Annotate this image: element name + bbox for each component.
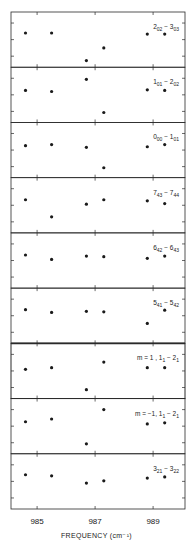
data-point: [146, 366, 149, 369]
data-point: [146, 199, 149, 202]
data-point: [50, 474, 53, 477]
data-point: [146, 257, 149, 260]
data-point: [85, 481, 88, 484]
x-tick-label: 987: [88, 517, 102, 526]
data-point: [24, 253, 27, 256]
data-point: [24, 368, 27, 371]
panel: 642 − 643: [11, 233, 185, 288]
data-point: [24, 473, 27, 476]
data-point: [163, 89, 166, 92]
data-point: [146, 88, 149, 91]
panel-label: m = 1 , 11 − 21: [137, 354, 179, 363]
data-point: [102, 255, 105, 258]
panel: m = 1 , 11 − 21: [11, 343, 185, 398]
panel: 101 − 202: [11, 67, 185, 122]
data-point: [85, 59, 88, 62]
data-point: [146, 32, 149, 35]
data-point: [50, 90, 53, 93]
data-point: [163, 202, 166, 205]
data-point: [163, 254, 166, 257]
data-point: [85, 203, 88, 206]
data-point: [24, 198, 27, 201]
panel-label: 642 − 643: [153, 244, 179, 253]
data-point: [102, 111, 105, 114]
panel-frame: [11, 454, 185, 509]
panel-frame: [11, 122, 185, 177]
data-point: [102, 166, 105, 169]
panel: 743 − 744: [11, 178, 185, 233]
panel-frame: [11, 12, 185, 67]
data-point: [50, 143, 53, 146]
panel-frame: [11, 178, 185, 233]
data-point: [85, 146, 88, 149]
data-point: [50, 311, 53, 314]
stacked-scatter-chart: 202 − 303101 − 202000 − 101743 − 744642 …: [0, 0, 193, 553]
panel-label: 321 − 322: [153, 465, 179, 474]
data-point: [85, 442, 88, 445]
data-point: [163, 366, 166, 369]
data-point: [163, 32, 166, 35]
panel-label: 101 − 202: [153, 78, 179, 87]
data-point: [163, 475, 166, 478]
data-point: [102, 46, 105, 49]
data-point: [102, 479, 105, 482]
data-point: [102, 361, 105, 364]
data-point: [24, 420, 27, 423]
data-point: [24, 31, 27, 34]
data-point: [85, 254, 88, 257]
panel-frame: [11, 288, 185, 343]
panel-frame: [11, 233, 185, 288]
x-axis-title: FREQUENCY (cm⁻¹): [0, 532, 193, 540]
data-point: [85, 388, 88, 391]
data-point: [85, 78, 88, 81]
panel: 000 − 101: [11, 122, 185, 177]
data-point: [50, 366, 53, 369]
panel-frame: [11, 67, 185, 122]
panel-label: m = −1, 11 − 21: [135, 410, 179, 419]
x-tick-label: 985: [30, 517, 44, 526]
data-point: [85, 310, 88, 313]
data-point: [146, 145, 149, 148]
panel-label: 000 − 101: [153, 133, 179, 142]
panel: m = −1, 11 − 21: [11, 399, 185, 454]
data-point: [163, 309, 166, 312]
data-point: [50, 215, 53, 218]
data-point: [24, 89, 27, 92]
data-point: [102, 310, 105, 313]
data-point: [146, 422, 149, 425]
data-point: [24, 308, 27, 311]
data-point: [163, 421, 166, 424]
panel: 541 − 542: [11, 288, 185, 343]
panel-label: 202 − 303: [153, 23, 179, 32]
x-tick-label: 989: [146, 517, 160, 526]
data-point: [50, 258, 53, 261]
data-point: [146, 322, 149, 325]
data-point: [50, 417, 53, 420]
panel-label: 541 − 542: [153, 299, 179, 308]
data-point: [102, 198, 105, 201]
panel-frame: [11, 399, 185, 454]
panel: 202 − 303: [11, 12, 185, 67]
data-point: [146, 476, 149, 479]
panel: 321 − 322: [11, 454, 185, 509]
panel-label: 743 − 744: [153, 189, 179, 198]
data-point: [24, 144, 27, 147]
data-point: [50, 31, 53, 34]
data-point: [102, 408, 105, 411]
data-point: [163, 143, 166, 146]
panel-frame: [11, 343, 185, 398]
